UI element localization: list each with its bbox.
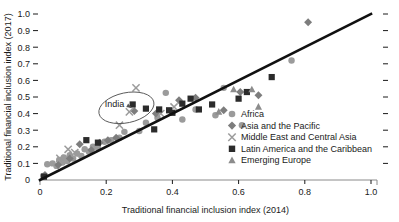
data-point [83, 137, 89, 143]
y-tick-label: 0.2 [17, 142, 30, 152]
data-point [269, 74, 275, 80]
data-point [209, 101, 215, 107]
india-annotation-label: India [105, 99, 125, 109]
legend-marker-triangle [228, 156, 235, 163]
x-tick-label: 0.8 [299, 187, 312, 197]
y-tick-label: 0.4 [17, 109, 30, 119]
legend-item-asia-and-the-pacific[interactable]: Asia and the Pacific [228, 121, 321, 131]
y-tick-label: 0.9 [17, 26, 30, 36]
data-point [143, 106, 149, 112]
data-point [188, 96, 194, 102]
x-tick-label: 0 [37, 187, 42, 197]
y-tick-label: 0.3 [17, 126, 30, 136]
data-point [121, 129, 127, 135]
y-axis-title: Traditional financial inclusion index (2… [3, 13, 13, 180]
y-tick-label: 1.0 [17, 9, 30, 19]
data-point [304, 18, 312, 26]
chart-canvas: 00.10.20.30.40.50.60.70.80.91.000.20.40.… [0, 0, 399, 222]
y-tick-label: 0.5 [17, 92, 30, 102]
y-tick-label: 0.6 [17, 76, 30, 86]
legend-marker-x [228, 133, 235, 140]
data-point [179, 101, 185, 107]
x-tick-label: 1.0 [365, 187, 378, 197]
data-point [156, 106, 162, 112]
x-tick-label: 0.6 [232, 187, 245, 197]
legend-label: Middle East and Central Asia [241, 132, 357, 142]
data-point [288, 57, 294, 63]
legend-item-middle-east-and-central-asia[interactable]: Middle East and Central Asia [228, 132, 356, 142]
data-point [132, 84, 139, 91]
legend-label: Latin America and the Caribbean [241, 144, 372, 154]
y-tick-label: 0.1 [17, 159, 30, 169]
legend: AfricaAsia and the PacificMiddle East an… [228, 109, 372, 165]
legend-label: Asia and the Pacific [241, 121, 321, 131]
data-point [65, 146, 72, 153]
data-point [196, 106, 202, 112]
plot-layer: 00.10.20.30.40.50.60.70.80.91.000.20.40.… [3, 9, 388, 215]
data-point [179, 116, 185, 122]
y-tick-label: 0 [25, 175, 30, 185]
x-axis-title: Traditional financial inclusion index (2… [122, 205, 289, 215]
data-point [236, 96, 242, 102]
legend-marker-diamond [228, 122, 236, 130]
legend-label: Africa [241, 109, 264, 119]
legend-item-latin-america-and-the-caribbean[interactable]: Latin America and the Caribbean [229, 144, 372, 154]
data-point [116, 122, 123, 129]
x-tick-label: 0.4 [166, 187, 179, 197]
reference-diagonal-line [40, 14, 371, 180]
y-tick-label: 0.7 [17, 59, 30, 69]
legend-marker-square [229, 146, 235, 152]
data-point [163, 90, 169, 96]
data-point [236, 88, 244, 96]
legend-marker-circle [229, 111, 236, 118]
legend-item-emerging-europe[interactable]: Emerging Europe [228, 155, 311, 165]
data-point [151, 126, 157, 132]
y-tick-label: 0.8 [17, 43, 30, 53]
legend-label: Emerging Europe [241, 155, 311, 165]
scatter-chart-container: 00.10.20.30.40.50.60.70.80.91.000.20.40.… [0, 0, 399, 222]
data-point [230, 86, 237, 93]
data-point [95, 140, 101, 146]
x-tick-label: 0.2 [100, 187, 113, 197]
data-point [254, 91, 262, 99]
legend-item-africa[interactable]: Africa [229, 109, 264, 119]
